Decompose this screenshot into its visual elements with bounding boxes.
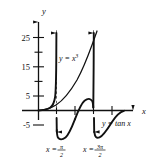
y-tick-label-5: 5 xyxy=(26,91,30,101)
curve-label-cubic-exponent: 3 xyxy=(75,53,79,59)
y-axis-label: y xyxy=(41,6,46,16)
asymptote-label-pi-over-2-numerator: π xyxy=(60,144,64,150)
curve-label-cubic: y = x3 xyxy=(58,53,79,63)
y-tick-label-neg5: -5 xyxy=(23,120,30,130)
asymptote-label-pi-over-2: x = π 2 xyxy=(45,144,66,159)
y-tick-label-15: 15 xyxy=(22,62,31,72)
axes-group xyxy=(22,22,133,120)
asymptote-label-pi-over-2-prefix: x = xyxy=(45,145,57,154)
asymptote-label-3pi-over-2-denominator: 2 xyxy=(99,152,102,158)
curve-tangent-branch-1 xyxy=(39,33,57,111)
asymptote-label-3pi-over-2-numerator: 3π xyxy=(96,144,104,150)
figure-container: y x 25 15 5 -5 y = x3 y = tan x x = π 2 … xyxy=(0,0,157,162)
curve-label-cubic-text: y = x xyxy=(58,54,76,63)
curve-tangent-branch-2-asymptotic-up xyxy=(93,33,94,108)
asymptote-lines xyxy=(57,30,94,108)
x-axis-label: x xyxy=(141,106,146,116)
asymptote-label-3pi-over-2-prefix: x = xyxy=(82,145,94,154)
svg-text:y = x3: y = x3 xyxy=(58,53,79,63)
curve-label-tangent: y = tan x xyxy=(101,119,131,128)
graph-canvas: y x 25 15 5 -5 y = x3 y = tan x x = π 2 … xyxy=(0,0,157,162)
y-tick-label-25: 25 xyxy=(22,33,31,43)
curve-tangent-branch-2-upper xyxy=(75,99,93,119)
curve-tangent-branch-2-lower xyxy=(57,119,75,139)
asymptote-label-3pi-over-2: x = 3π 2 xyxy=(82,144,106,159)
asymptote-label-pi-over-2-denominator: 2 xyxy=(60,152,63,158)
